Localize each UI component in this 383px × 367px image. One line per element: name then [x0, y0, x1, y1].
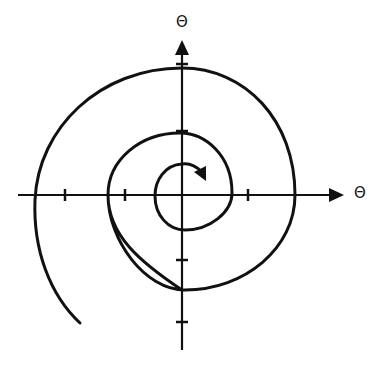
vertical-axis-arrowhead — [175, 40, 189, 55]
vertical-axis-label: Θ — [176, 15, 188, 30]
horizontal-axis-arrowhead — [329, 188, 344, 202]
horizontal-axis-label: Θ — [354, 186, 366, 201]
phase-plane-diagram — [0, 0, 383, 367]
